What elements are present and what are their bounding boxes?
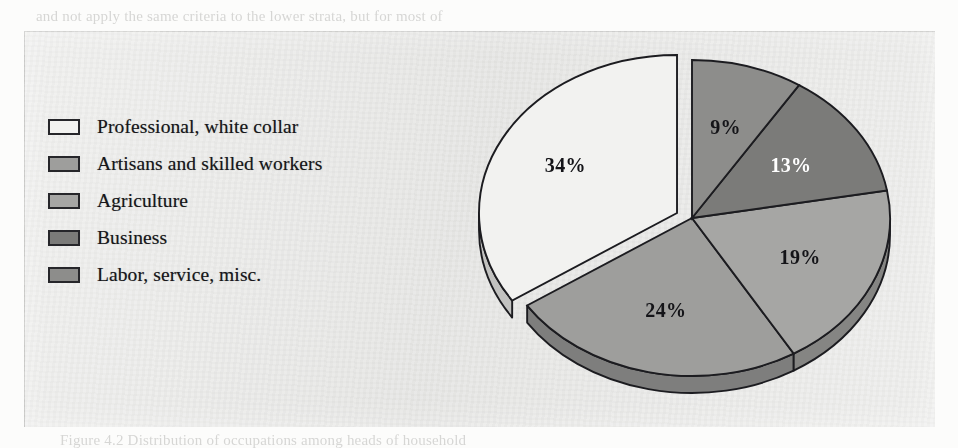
legend-item-label: Professional, white collar — [97, 116, 298, 138]
legend-swatch-agriculture — [48, 193, 80, 209]
legend-swatch-professional — [48, 119, 80, 135]
pie-slice-percent-label: 34% — [545, 154, 586, 176]
pie-slice-percent-label: 13% — [770, 154, 811, 176]
legend-item: Business — [48, 219, 368, 256]
legend-swatch-business — [48, 230, 80, 246]
legend-item: Professional, white collar — [48, 108, 368, 145]
showthrough-line: and not apply the same criteria to the l… — [36, 8, 443, 25]
pie-slice-percent-label: 9% — [710, 116, 741, 138]
legend-swatch-labor — [48, 267, 80, 283]
showthrough-line: Figure 4.2 Distribution of occupations a… — [60, 432, 466, 448]
legend-item: Labor, service, misc. — [48, 256, 368, 293]
legend-item-label: Artisans and skilled workers — [97, 153, 322, 175]
scanned-page: and not apply the same criteria to the l… — [0, 0, 958, 448]
pie-chart-svg: 34%24%19%13%9% — [440, 34, 910, 394]
chart-legend: Professional, white collar Artisans and … — [48, 108, 368, 293]
legend-item-label: Business — [97, 227, 167, 249]
pie-chart: 34%24%19%13%9% — [440, 34, 910, 394]
legend-item: Artisans and skilled workers — [48, 145, 368, 182]
legend-item: Agriculture — [48, 182, 368, 219]
pie-slice-percent-label: 24% — [645, 299, 686, 321]
legend-item-label: Labor, service, misc. — [97, 264, 261, 286]
legend-item-label: Agriculture — [97, 190, 188, 212]
legend-swatch-artisans — [48, 156, 80, 172]
pie-slice-percent-label: 19% — [780, 246, 821, 268]
